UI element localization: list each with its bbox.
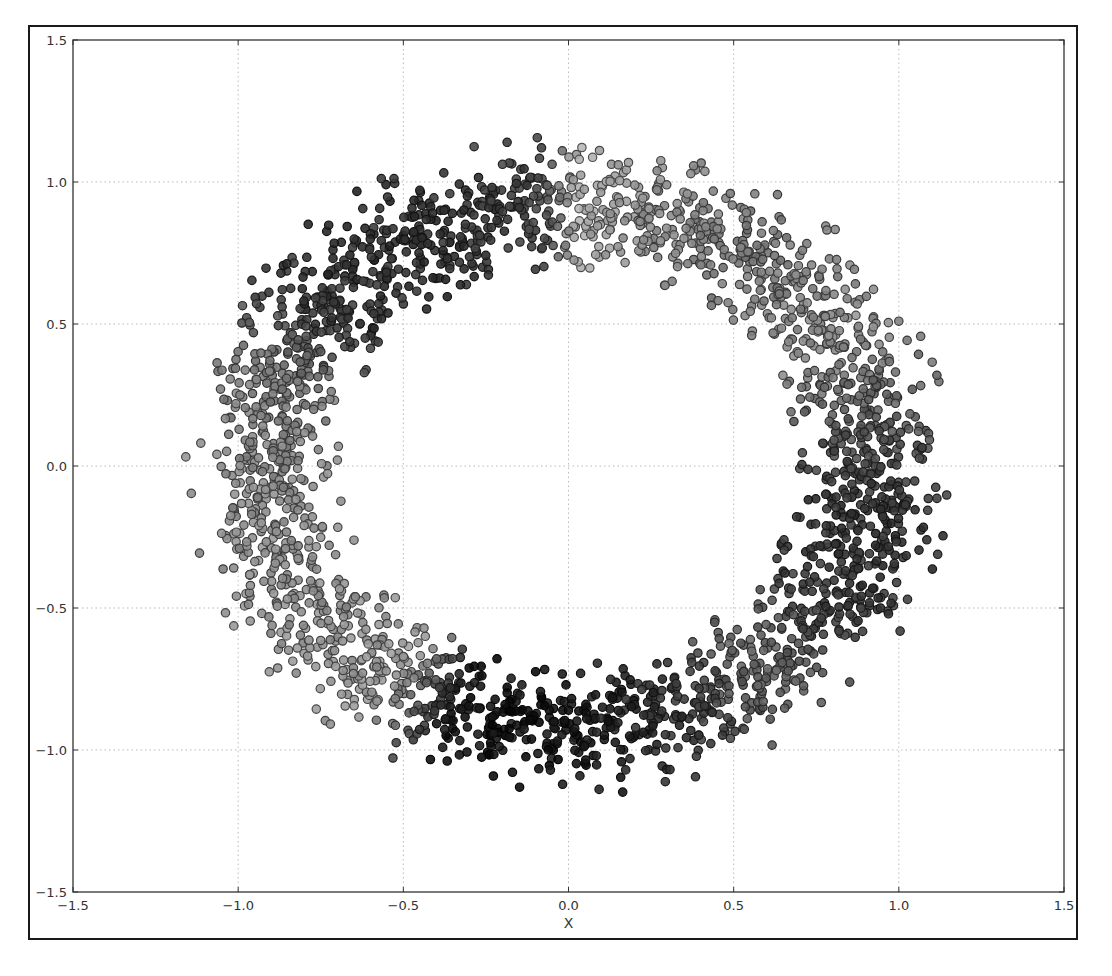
data-point	[662, 224, 670, 232]
y-tick-label: 1.0	[46, 175, 67, 190]
data-point	[482, 251, 490, 259]
data-point	[544, 746, 552, 754]
data-point	[503, 689, 511, 697]
data-point	[312, 543, 320, 551]
data-point	[522, 753, 530, 761]
data-point	[489, 729, 497, 737]
data-point	[654, 253, 662, 261]
data-point	[294, 506, 302, 514]
data-point	[297, 608, 305, 616]
data-point	[230, 622, 238, 630]
data-point	[327, 387, 335, 395]
data-point	[401, 235, 409, 243]
data-point	[418, 276, 426, 284]
data-point	[341, 702, 349, 710]
data-point	[858, 627, 866, 635]
data-point	[260, 577, 268, 585]
data-point	[277, 640, 285, 648]
data-point	[375, 620, 383, 628]
data-point	[796, 305, 804, 313]
data-point	[832, 421, 840, 429]
data-point	[697, 261, 705, 269]
data-point	[832, 493, 840, 501]
data-point	[873, 557, 881, 565]
data-point	[289, 657, 297, 665]
data-point	[432, 676, 440, 684]
data-point	[358, 669, 366, 677]
data-point	[359, 204, 367, 212]
data-point	[273, 602, 281, 610]
data-point	[538, 244, 546, 252]
data-point	[527, 735, 535, 743]
data-point	[830, 401, 838, 409]
data-point	[407, 691, 415, 699]
data-point	[806, 668, 814, 676]
data-point	[554, 755, 562, 763]
data-point	[550, 717, 558, 725]
data-point	[299, 621, 307, 629]
data-point	[513, 721, 521, 729]
data-point	[292, 495, 300, 503]
data-point	[810, 366, 818, 374]
data-point	[440, 169, 448, 177]
data-point	[572, 759, 580, 767]
data-point	[341, 277, 349, 285]
data-point	[540, 262, 548, 270]
data-point	[508, 768, 516, 776]
data-point	[344, 679, 352, 687]
data-point	[370, 309, 378, 317]
data-point	[619, 234, 627, 242]
data-point	[853, 300, 861, 308]
data-point	[366, 235, 374, 243]
data-point	[825, 331, 833, 339]
data-point	[461, 713, 469, 721]
data-point	[337, 497, 345, 505]
data-point	[265, 288, 273, 296]
data-point	[792, 271, 800, 279]
data-point	[865, 550, 873, 558]
data-point	[799, 276, 807, 284]
data-point	[923, 536, 931, 544]
data-point	[864, 562, 872, 570]
data-point	[593, 222, 601, 230]
data-point	[262, 538, 270, 546]
data-point	[834, 272, 842, 280]
data-point	[350, 235, 358, 243]
data-point	[376, 204, 384, 212]
data-point	[347, 634, 355, 642]
data-point	[461, 220, 469, 228]
data-point	[400, 213, 408, 221]
data-point	[306, 577, 314, 585]
data-point	[361, 334, 369, 342]
data-point	[340, 620, 348, 628]
data-point	[924, 506, 932, 514]
data-point	[182, 453, 190, 461]
data-point	[818, 265, 826, 273]
data-point	[221, 414, 229, 422]
data-point	[569, 176, 577, 184]
data-point	[834, 591, 842, 599]
data-point	[410, 228, 418, 236]
scatter-points	[182, 134, 951, 797]
data-point	[704, 247, 712, 255]
data-point	[293, 377, 301, 385]
data-point	[269, 482, 277, 490]
data-point	[532, 205, 540, 213]
data-point	[351, 593, 359, 601]
data-point	[232, 355, 240, 363]
data-point	[740, 725, 748, 733]
data-point	[310, 524, 318, 532]
data-point	[536, 687, 544, 695]
data-point	[534, 749, 542, 757]
data-point	[446, 265, 454, 273]
data-point	[443, 293, 451, 301]
data-point	[772, 301, 780, 309]
data-point	[798, 449, 806, 457]
data-point	[614, 243, 622, 251]
data-point	[251, 557, 259, 565]
data-point	[390, 174, 398, 182]
data-point	[213, 450, 221, 458]
data-point	[304, 220, 312, 228]
data-point	[825, 563, 833, 571]
data-point	[222, 447, 230, 455]
